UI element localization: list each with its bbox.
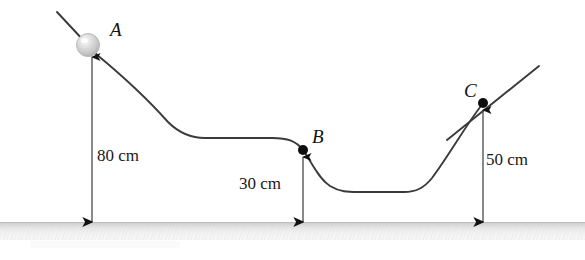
point-c-label: C <box>464 80 477 101</box>
point-b-label: B <box>312 126 324 147</box>
height-c-label: 50 cm <box>486 150 528 169</box>
point-b: B <box>298 126 324 155</box>
measurement-height-b: 30 cm <box>239 157 303 222</box>
physics-diagram: 80 cm 30 cm 50 cm B C A <box>0 0 585 260</box>
track-curve <box>96 54 481 192</box>
ground <box>0 222 585 248</box>
track-diagram-canvas: 80 cm 30 cm 50 cm B C A <box>0 0 585 260</box>
track <box>57 12 539 192</box>
point-a: A <box>77 19 123 57</box>
point-c: C <box>464 80 488 108</box>
ball-texture <box>77 34 99 56</box>
point-a-label: A <box>108 19 122 40</box>
ground-shading <box>0 222 585 240</box>
point-b-dot <box>298 145 308 155</box>
incline-right-segment <box>447 66 539 140</box>
height-b-label: 30 cm <box>239 174 281 193</box>
measurement-height-c: 50 cm <box>483 110 528 222</box>
ball-highlight <box>81 38 88 43</box>
height-a-label: 80 cm <box>97 146 139 165</box>
measurement-height-a: 80 cm <box>92 57 139 222</box>
point-c-dot <box>478 98 488 108</box>
ground-lower-texture <box>30 241 180 248</box>
